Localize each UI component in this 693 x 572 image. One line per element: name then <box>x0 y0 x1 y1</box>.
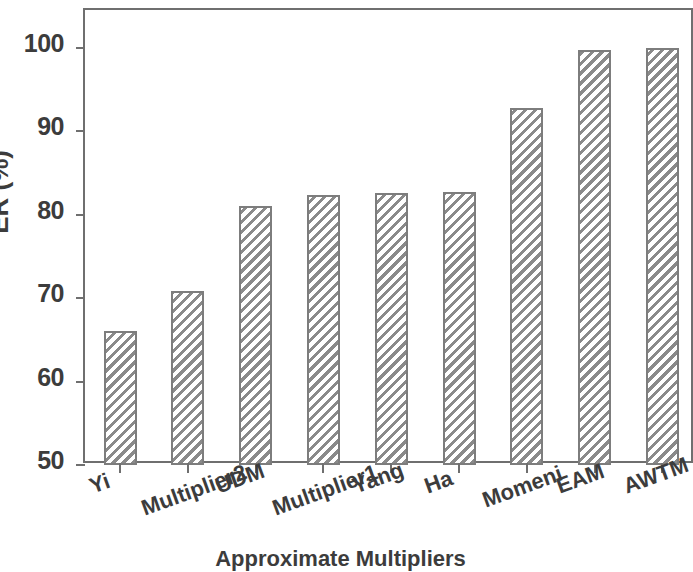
x-axis-tick-label: UDM <box>212 458 268 500</box>
x-axis-title: Approximate Multipliers <box>0 546 681 572</box>
x-axis-tick-label: EAM <box>553 458 608 499</box>
x-axis-tick-label: AWTM <box>620 452 692 499</box>
x-axis-tick-label: Ha <box>421 465 456 499</box>
x-axis-tick-label: Yi <box>86 468 114 499</box>
x-axis-tick-label: Momeni <box>479 461 566 514</box>
